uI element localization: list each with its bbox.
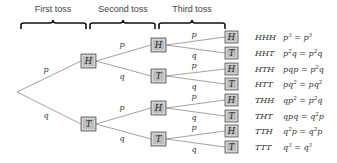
outcome-row-TTT: T TTT q3 = q3 <box>225 141 313 153</box>
outcome-row-TTH: H TTH q2p = q2p <box>225 125 322 137</box>
edge-leaf-3 <box>166 69 225 76</box>
outcome-probability: q2p = q2p <box>283 126 322 136</box>
outcome-sequence: HHH <box>254 33 277 42</box>
svg-text:H: H <box>154 103 163 113</box>
branch-label-p: p <box>191 61 196 70</box>
svg-text:H: H <box>84 56 93 66</box>
header-first-toss: First toss <box>35 4 72 14</box>
outcome-sequence: THH <box>255 96 275 105</box>
outcome-row-HHH: H HHH p3 = p3 <box>225 31 313 43</box>
outcome-probability: qpq = q2p <box>283 111 324 121</box>
outcome-sequence: TTT <box>255 143 272 152</box>
edge-leaf-5 <box>166 100 225 108</box>
edge-leaf-7 <box>166 131 225 139</box>
branch-label-q: q <box>119 72 124 81</box>
branch-label-q: q <box>43 111 48 120</box>
branch-label-p: p <box>191 30 196 39</box>
node-first-H: H <box>81 54 96 68</box>
outcome-sequence: HTT <box>254 80 273 89</box>
outcome-sequence: THT <box>255 112 273 121</box>
node-second-TH: H <box>151 101 166 115</box>
svg-text:H: H <box>227 64 236 74</box>
branch-label-p: p <box>119 103 124 112</box>
branch-label-q: q <box>119 134 124 143</box>
branch-label-p: p <box>119 40 124 49</box>
svg-text:H: H <box>227 95 236 105</box>
branch-label-q: q <box>191 51 196 60</box>
branch-label-q: q <box>191 145 196 154</box>
outcome-probability: pq2 = pq2 <box>283 79 323 89</box>
node-second-TT: T <box>151 132 166 146</box>
edge-root-H <box>17 61 81 92</box>
outcome-row-HTH: H HTH pqp = p2q <box>225 63 324 75</box>
outcome-sequence: TTH <box>255 127 274 136</box>
outcome-sequence: HTH <box>254 65 275 74</box>
outcome-probability: q3 = q3 <box>283 142 313 152</box>
outcome-row-THT: T THT qpq = q2p <box>225 110 324 122</box>
outcome-row-HHT: T HHT p2q = p2q <box>225 47 322 59</box>
outcome-probability: pqp = p2q <box>283 64 324 74</box>
svg-text:H: H <box>227 32 236 42</box>
branch-label-p: p <box>43 65 48 74</box>
branch-label-p: p <box>191 123 196 132</box>
brace-second-toss <box>90 20 155 29</box>
header-third-toss: Third toss <box>172 4 212 14</box>
svg-text:H: H <box>154 40 163 50</box>
branch-label-p: p <box>191 92 196 101</box>
branch-label-q: q <box>191 82 196 91</box>
node-first-T: T <box>81 117 96 131</box>
node-second-HT: T <box>151 69 166 83</box>
node-second-HH: H <box>151 38 166 52</box>
header-second-toss: Second toss <box>98 4 148 14</box>
edge-root-T <box>17 92 81 124</box>
outcome-probability: p2q = p2q <box>283 48 322 58</box>
outcome-probability: p3 = p3 <box>283 32 313 42</box>
outcome-sequence: HHT <box>254 49 275 58</box>
svg-text:H: H <box>227 126 236 136</box>
probability-tree-diagram: First toss Second toss Third toss p q p … <box>0 0 337 163</box>
brace-first-toss <box>21 20 86 29</box>
brace-third-toss <box>159 20 225 29</box>
outcome-row-THH: H THH qp2 = p2q <box>225 94 322 106</box>
outcome-row-HTT: T HTT pq2 = pq2 <box>225 78 323 90</box>
outcome-probability: qp2 = p2q <box>283 95 322 105</box>
branch-label-q: q <box>191 113 196 122</box>
